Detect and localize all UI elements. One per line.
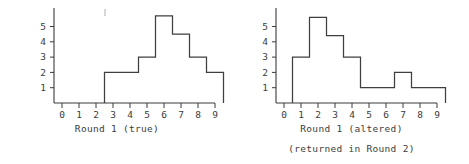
svg-text:4: 4 [40,36,46,47]
svg-text:1: 1 [76,109,82,120]
svg-text:5: 5 [262,21,268,32]
svg-text:1: 1 [298,109,304,120]
svg-text:5: 5 [144,109,150,120]
svg-text:3: 3 [262,51,268,62]
x-axis-title-right-line2: (returned in Round 2) [234,143,469,154]
svg-text:1: 1 [40,82,46,93]
histogram-plot-right: 1 2 3 4 5 0 1 2 3 [234,0,469,120]
svg-text:2: 2 [93,109,99,120]
x-ticks-right: 0 1 2 3 4 5 6 7 8 9 [281,103,440,120]
svg-text:3: 3 [332,109,338,120]
svg-text:2: 2 [315,109,321,120]
svg-text:4: 4 [349,109,355,120]
svg-text:5: 5 [366,109,372,120]
svg-text:0: 0 [281,109,287,120]
svg-text:9: 9 [212,109,218,120]
svg-text:3: 3 [40,51,46,62]
y-ticks-left: 1 2 3 4 5 [40,21,54,93]
svg-text:6: 6 [161,109,167,120]
y-ticks-right: 1 2 3 4 5 [262,21,276,93]
svg-text:9: 9 [434,109,440,120]
panel-round1-true: #responses 1 2 3 4 5 [0,0,234,164]
svg-text:8: 8 [417,109,423,120]
two-panel-histogram-figure: #responses 1 2 3 4 5 [0,0,469,164]
svg-text:3: 3 [110,109,116,120]
x-axis-title-left: Round 1 (true) [0,123,234,134]
svg-text:4: 4 [127,109,133,120]
svg-text:4: 4 [262,36,268,47]
svg-text:5: 5 [40,21,46,32]
svg-text:7: 7 [178,109,184,120]
histogram-outline-right [293,17,446,103]
x-ticks-left: 0 1 2 3 4 5 6 7 8 9 [59,103,218,120]
svg-text:2: 2 [40,67,46,78]
svg-text:7: 7 [400,109,406,120]
histogram-outline-left [105,16,224,103]
histogram-plot-left: 1 2 3 4 5 0 1 2 3 [0,0,234,120]
svg-text:2: 2 [262,67,268,78]
svg-text:8: 8 [195,109,201,120]
svg-text:1: 1 [262,82,268,93]
panel-round1-altered: # responses 1 2 3 4 5 [234,0,469,164]
svg-text:0: 0 [59,109,65,120]
svg-text:6: 6 [383,109,389,120]
x-axis-title-right-line1: Round 1 (altered) [234,123,469,134]
